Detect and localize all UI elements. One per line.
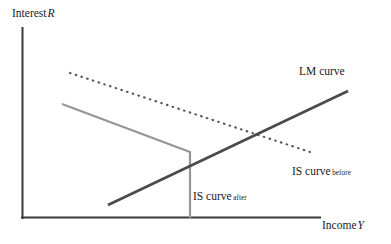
is-curve-before-line bbox=[70, 73, 310, 152]
plot-canvas bbox=[0, 0, 391, 244]
is-curve-after-label: IS curveafter bbox=[193, 191, 247, 203]
x-axis-label-variable: Y bbox=[356, 219, 363, 231]
y-axis-label-variable: R bbox=[46, 7, 54, 19]
lm-curve-label: LM curve bbox=[299, 66, 345, 78]
is-lm-figure: InterestR IncomeY LM curve IS curvebefor… bbox=[0, 0, 391, 244]
is-curve-before-label-subscript: before bbox=[331, 169, 351, 177]
x-axis-label: IncomeY bbox=[322, 220, 364, 232]
is-curve-before-label: IS curvebefore bbox=[292, 166, 351, 178]
y-axis-label: InterestR bbox=[12, 8, 55, 20]
y-axis-label-text: Interest bbox=[12, 7, 46, 19]
is-curve-after-line bbox=[62, 104, 190, 218]
x-axis-label-text: Income bbox=[322, 219, 356, 231]
is-curve-after-label-main: IS curve bbox=[193, 190, 232, 202]
lm-curve-line bbox=[108, 91, 348, 205]
is-curve-before-label-main: IS curve bbox=[292, 165, 331, 177]
is-curve-after-label-subscript: after bbox=[232, 194, 247, 202]
